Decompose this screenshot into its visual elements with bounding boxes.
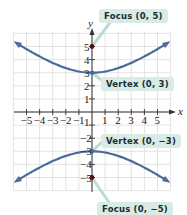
x-tick-label: 2 xyxy=(115,114,121,126)
hyperbola-chart: xy −5−4−3−2−11234554321−2−3−4−51 xyxy=(0,0,187,215)
x-tick-label: 5 xyxy=(155,114,161,126)
x-tick-label: −2 xyxy=(60,114,72,126)
curve-arrow-icon xyxy=(162,176,170,183)
focus-bottom-label: Focus (0, −5) xyxy=(97,202,173,215)
x-tick-label: 3 xyxy=(128,114,134,126)
x-tick-label: −1 xyxy=(73,114,85,126)
y-tick-label: 1 xyxy=(84,93,90,105)
curve-arrow-icon xyxy=(14,176,22,183)
y-tick-label: 4 xyxy=(84,54,90,66)
focus-point xyxy=(90,44,95,49)
y-tick-label: −4 xyxy=(80,158,92,170)
y-tick-label: −3 xyxy=(80,145,92,157)
y-tick-label: 2 xyxy=(84,80,90,92)
x-axis-label: x xyxy=(177,105,183,117)
x-tick-label: 1 xyxy=(102,114,108,126)
x-axis-arrow-icon xyxy=(169,110,176,115)
vertex-bottom-label: Vertex (0, −3) xyxy=(101,134,181,148)
y-tick-label: 5 xyxy=(84,41,90,53)
y-tick-label: 3 xyxy=(84,67,90,79)
focus-top-label: Focus (0, 5) xyxy=(99,9,168,23)
y-tick-label: −5 xyxy=(80,172,92,184)
x-tick-label-small: 1 xyxy=(84,116,90,128)
y-axis-arrow-icon xyxy=(90,28,95,35)
y-axis-label: y xyxy=(87,17,93,29)
x-tick-label: −5 xyxy=(21,114,33,126)
x-tick-label: 4 xyxy=(141,114,147,126)
vertex-top-label: Vertex (0, 3) xyxy=(101,77,174,91)
x-tick-label: −3 xyxy=(47,114,59,126)
curve-arrow-icon xyxy=(14,41,22,48)
curve-arrow-icon xyxy=(162,41,170,48)
y-tick-label: −2 xyxy=(80,132,92,144)
x-tick-label: −4 xyxy=(34,114,46,126)
vertex-point xyxy=(90,71,94,75)
